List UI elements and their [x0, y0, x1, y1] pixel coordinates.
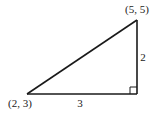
right-angle-marker: [130, 87, 137, 94]
triangle-diagram: (5, 5) (2, 3) 3 2: [0, 0, 156, 114]
side-label-horizontal: 3: [77, 97, 83, 109]
side-label-vertical: 2: [140, 51, 146, 63]
vertex-label-top: (5, 5): [125, 3, 149, 16]
hypotenuse: [27, 20, 137, 94]
vertex-label-bottom-left: (2, 3): [8, 97, 32, 110]
